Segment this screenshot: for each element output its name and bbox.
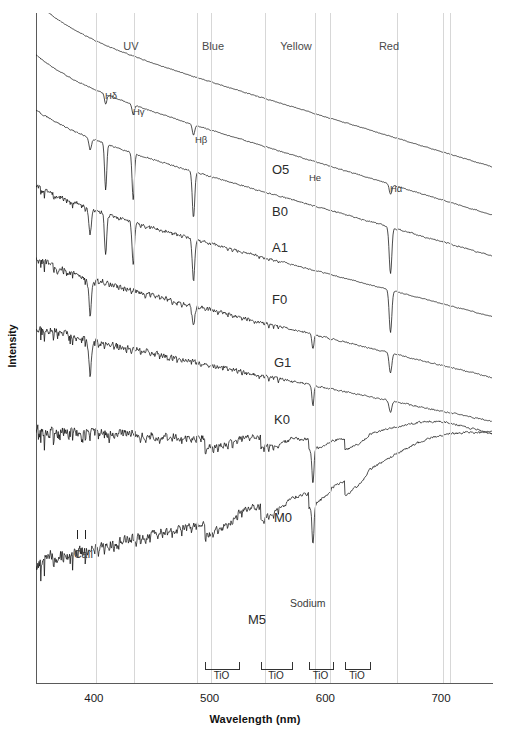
spectrum-trace-k0: [36, 326, 492, 421]
gridline: [211, 13, 212, 683]
spectrum-trace-f0: [36, 185, 492, 333]
spectrum-trace-b0: [36, 55, 492, 215]
band-label-blue: Blue: [183, 40, 243, 52]
annotation-hydrogen-line: Hγ: [133, 106, 145, 117]
spectral-type-label-b0: B0: [272, 204, 288, 219]
spectral-type-label-m5: M5: [248, 612, 266, 627]
spectral-type-label-m0: M0: [274, 510, 292, 525]
tio-bracket: [205, 662, 240, 670]
spectra-chart: UVBlueYellowRed O5B0A1F0G1K0M0M5 HδHγHβH…: [0, 0, 510, 737]
caii-tick-mark: [77, 530, 78, 539]
spectra-traces: [36, 13, 492, 683]
tio-bracket: [261, 662, 293, 670]
annotation-hydrogen-line: Hα: [390, 183, 402, 194]
band-label-yellow: Yellow: [266, 40, 326, 52]
spectral-type-label-f0: F0: [272, 292, 287, 307]
annotation-hydrogen-line: Hβ: [195, 134, 207, 145]
tio-label: TiO: [335, 670, 379, 681]
band-label-uv: UV: [101, 40, 161, 52]
spectral-type-label-a1: A1: [272, 240, 288, 255]
annotation-calcium-line: CaII: [74, 548, 93, 560]
gridline: [315, 13, 316, 683]
x-axis-line: [36, 683, 493, 684]
tio-label: TiO: [251, 670, 301, 681]
caii-tick-mark: [85, 530, 86, 539]
spectral-type-label-k0: K0: [274, 412, 290, 427]
annotation-sodium-line: Sodium: [290, 597, 326, 609]
annotation-helium-line: He: [309, 172, 321, 183]
annotation-hydrogen-line: Hδ: [105, 90, 117, 101]
gridline: [330, 13, 331, 683]
x-tick-label: 600: [305, 692, 345, 704]
spectrum-trace-m0: [36, 421, 492, 483]
x-axis-title: Wavelength (nm): [0, 713, 510, 725]
y-axis-title: Intensity: [6, 286, 18, 406]
x-tick-label: 400: [74, 692, 114, 704]
gridline: [450, 13, 451, 683]
gridline: [96, 13, 97, 683]
gridline: [265, 13, 266, 683]
spectral-type-label-g1: G1: [274, 355, 291, 370]
spectral-type-label-o5: O5: [272, 162, 289, 177]
gridline: [397, 13, 398, 683]
spectrum-trace-a1: [36, 110, 492, 273]
spectrum-trace-g1: [36, 258, 492, 378]
tio-bracket: [345, 662, 371, 670]
band-label-red: Red: [359, 40, 419, 52]
x-tick-label: 500: [190, 692, 230, 704]
spectrum-trace-m5: [36, 431, 492, 582]
tio-bracket: [309, 662, 334, 670]
tio-label: TiO: [195, 670, 248, 681]
x-tick-label: 700: [421, 692, 461, 704]
gridline: [197, 13, 198, 683]
plot-area: [36, 13, 492, 683]
gridline: [443, 13, 444, 683]
